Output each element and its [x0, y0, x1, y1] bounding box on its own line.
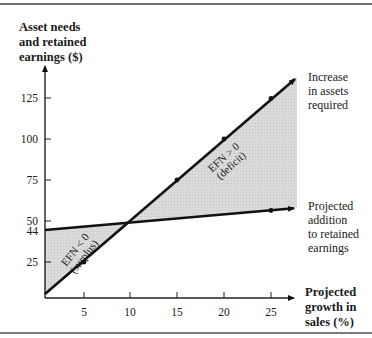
- y-tick-label: 125: [21, 92, 39, 104]
- x-axis-title-line: growth in: [305, 300, 357, 315]
- y-tick-label: 100: [21, 133, 39, 145]
- x-axis-title-line: Projected: [305, 285, 357, 300]
- lower-line-label: Projected addition to retained earnings: [308, 199, 359, 255]
- x-tick-label: 25: [265, 306, 277, 318]
- label-line: to retained: [308, 227, 359, 241]
- label-line: in assets: [308, 84, 348, 98]
- label-line: Increase: [308, 70, 348, 84]
- x-tick-label: 20: [218, 306, 230, 318]
- label-line: required: [308, 98, 348, 112]
- x-ticks: [84, 292, 271, 298]
- x-tick-label: 5: [81, 306, 87, 318]
- label-line: Projected: [308, 199, 359, 213]
- label-line: addition: [308, 213, 359, 227]
- upper-line-label: Increase in assets required: [308, 70, 348, 112]
- x-tick-label: 10: [124, 306, 136, 318]
- label-line: earnings: [308, 241, 359, 255]
- y-tick-label: 75: [27, 174, 39, 186]
- y-tick-label: 25: [27, 256, 39, 268]
- x-axis-title-line: sales (%): [305, 315, 357, 330]
- x-axis-title: Projected growth in sales (%): [305, 285, 357, 330]
- x-tick-label: 15: [171, 306, 183, 318]
- y-tick-label: 44: [27, 225, 39, 237]
